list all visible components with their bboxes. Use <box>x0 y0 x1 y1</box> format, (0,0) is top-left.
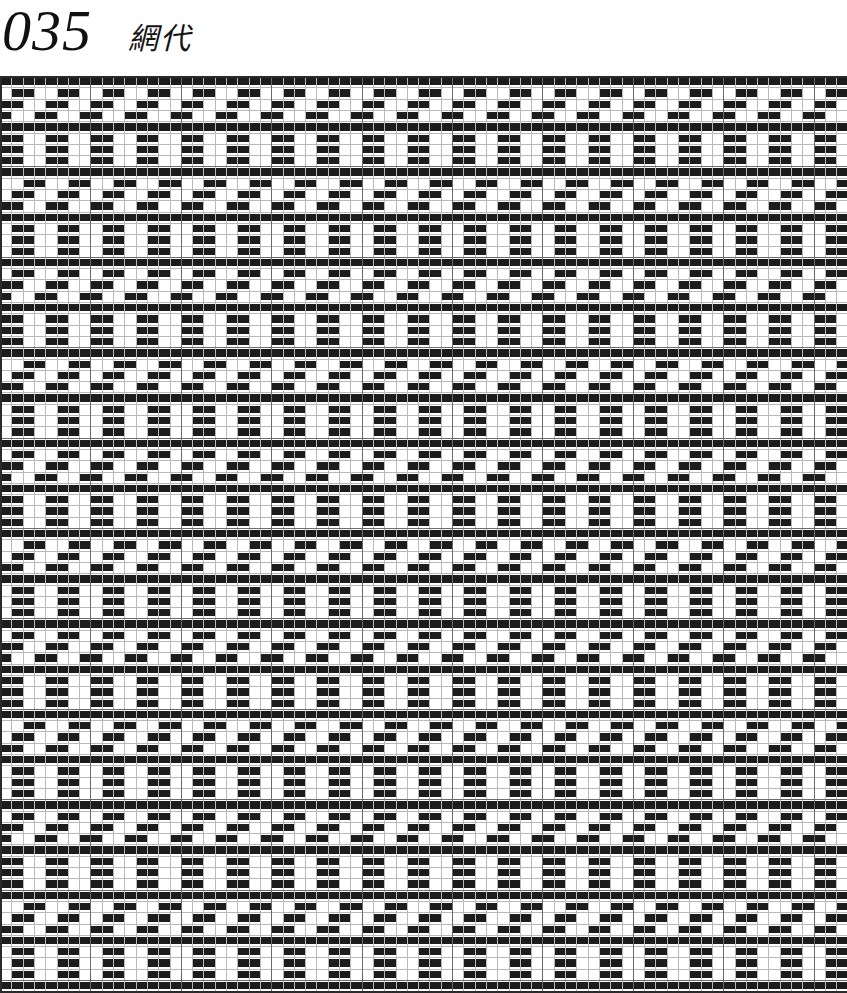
weave-draft-container: Weave draft grid <box>0 76 847 993</box>
plate-header: 035 網代 <box>0 0 847 76</box>
plate-title: 網代 <box>128 22 192 56</box>
weave-draft-grid <box>0 76 847 993</box>
plate-number: 035 <box>2 0 92 62</box>
